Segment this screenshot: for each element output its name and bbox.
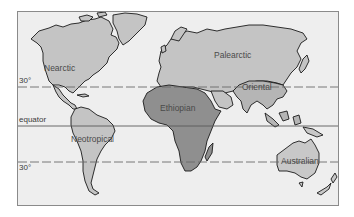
new-zealand	[317, 173, 337, 195]
nearctic-region	[31, 17, 119, 93]
equator-label: equator	[19, 116, 46, 124]
nearctic-label: Nearctic	[44, 64, 75, 73]
ethiopian-label: Ethiopian	[160, 104, 195, 113]
arabian-peninsula	[211, 91, 233, 109]
tasmania	[299, 182, 303, 187]
australian-label: Australian	[281, 157, 319, 166]
caribbean-islands	[77, 94, 89, 97]
new-guinea	[303, 127, 323, 137]
oriental-label: Oriental	[242, 83, 272, 92]
neotropical-label: Neotropical	[71, 135, 114, 144]
sea-islands	[265, 111, 301, 127]
palearctic-label: Palearctic	[214, 51, 251, 60]
neotropical-region	[71, 107, 115, 195]
latitude-30n-label: 30°	[19, 77, 31, 85]
latitude-30s-label: 30°	[19, 164, 31, 172]
british-isles	[161, 45, 166, 53]
